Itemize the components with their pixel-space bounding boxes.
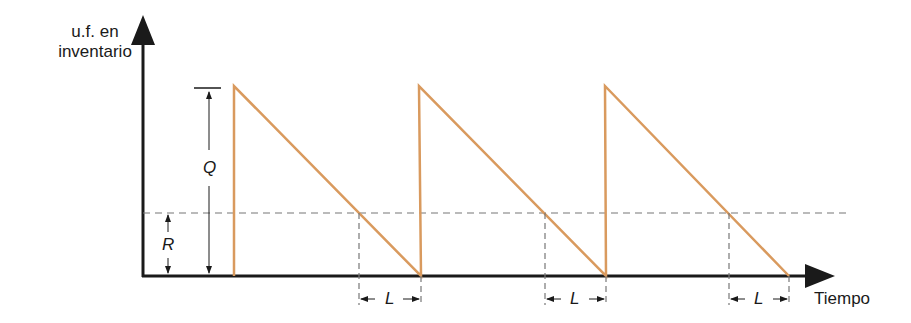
lead-time-label-1: L [385,289,394,309]
r-label: R [162,235,174,255]
inventory-level-line [234,86,789,276]
lead-time-label-3: L [754,289,763,309]
inventory-diagram [0,0,911,323]
lead-time-label-2: L [570,289,579,309]
x-axis-label: Tiempo [814,289,870,309]
q-label: Q [203,158,216,178]
y-axis-label-line2: inventario [57,42,133,62]
y-axis-label: u.f. en inventario [57,22,133,62]
y-axis-label-line1: u.f. en [57,22,133,42]
